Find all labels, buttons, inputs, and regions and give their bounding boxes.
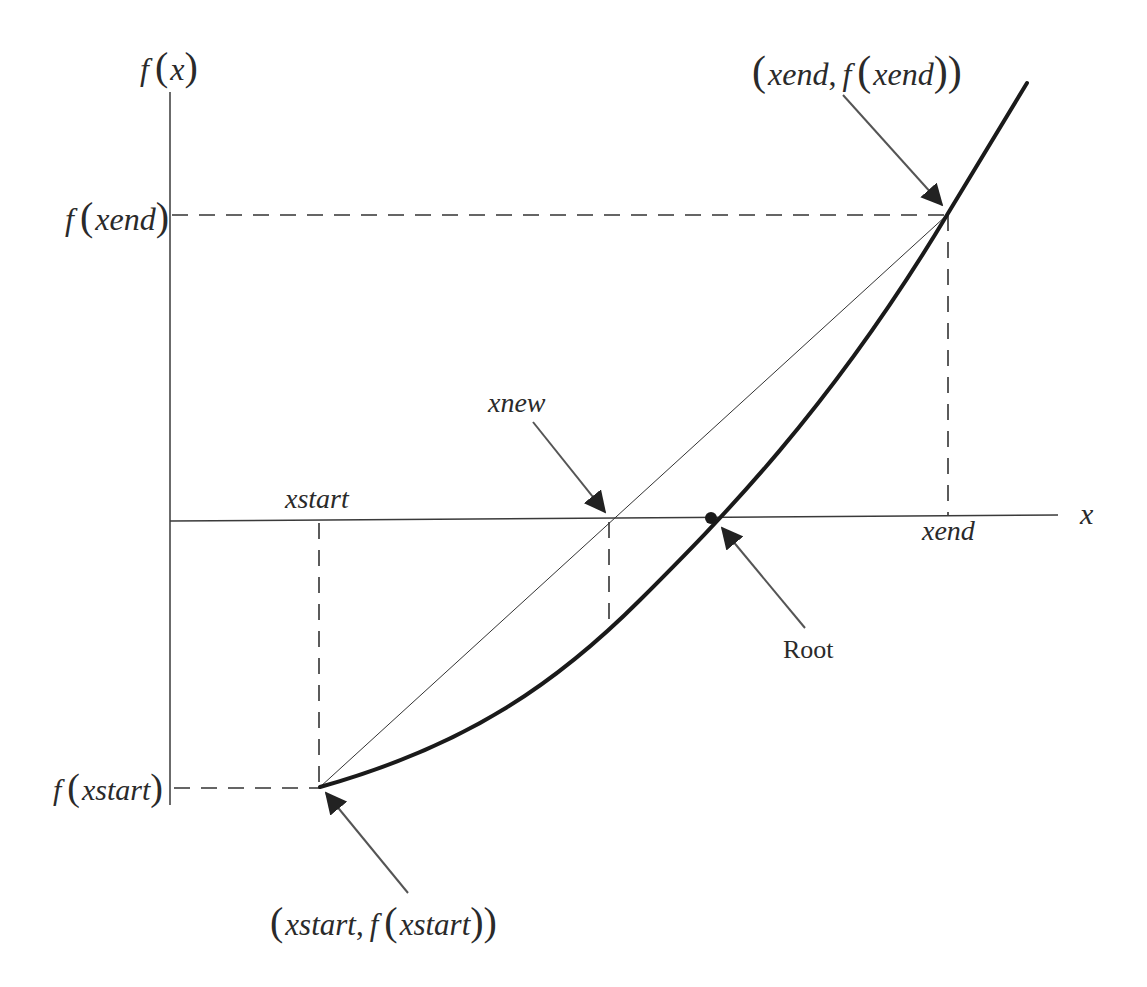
root-point <box>705 512 717 524</box>
arrow-root <box>722 528 805 628</box>
root-label: Root <box>783 635 834 664</box>
x-axis-label: x <box>1079 497 1094 530</box>
arrow-xnew <box>533 422 605 512</box>
y-tick-f-xend: f(xend) <box>65 194 169 239</box>
secant-line <box>320 215 947 787</box>
arrow-xend-point <box>843 95 942 205</box>
x-tick-xend: xend <box>921 515 976 546</box>
y-tick-f-xstart: f(xstart) <box>53 766 163 809</box>
xstart-point-label: (xstart,f(xstart)) <box>270 899 497 944</box>
x-tick-xstart: xstart <box>284 483 350 514</box>
function-curve <box>320 83 1027 787</box>
xnew-label: xnew <box>487 387 546 418</box>
y-axis-label: f(x) <box>140 44 198 89</box>
xend-point-label: (xend,f(xend)) <box>752 48 962 95</box>
arrow-xstart-point <box>326 793 408 893</box>
